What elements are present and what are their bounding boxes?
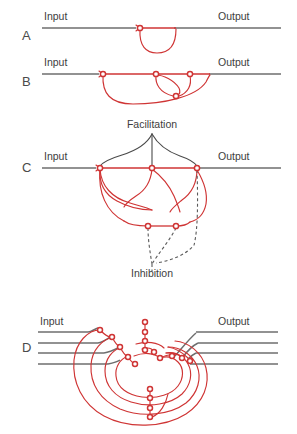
panel-c-loop-right-a: [170, 169, 197, 212]
panel-c-label: C: [22, 160, 31, 175]
panel-c-synapse-5: [173, 223, 178, 228]
panel-c: C Input Output Facilitation Inhibition: [22, 118, 281, 279]
panel-d-input-label: Input: [40, 315, 63, 327]
panel-d-loop-outer: [74, 330, 207, 425]
panel-c-inhibition-label: Inhibition: [131, 267, 173, 279]
panel-b-loop-mid-left: [156, 75, 173, 96]
panel-d-output-label: Output: [218, 315, 250, 327]
panel-c-synapse-3: [194, 165, 199, 170]
panel-d-synapse-l3: [118, 345, 123, 350]
panel-c-inhibition-fiber-1: [148, 228, 152, 264]
panel-d-synapse-l5: [133, 362, 138, 367]
panel-c-loop-mid-a: [124, 169, 152, 207]
panel-d-synapse-r3: [180, 356, 185, 361]
panel-c-facilitation-fiber-right: [152, 134, 197, 166]
panel-d-synapse-r1: [158, 356, 163, 361]
panel-d-synapse-l1: [98, 328, 103, 333]
panel-b-synapse-4: [173, 93, 178, 98]
panel-d-synapse-b2: [148, 396, 153, 401]
panel-d-label: D: [22, 340, 31, 355]
panel-c-synapse-2: [149, 165, 154, 170]
panel-d-inner-arc-1: [136, 342, 164, 348]
panel-b-label: B: [22, 74, 31, 89]
panel-c-input-label: Input: [44, 150, 67, 162]
panel-c-synapse-4: [145, 223, 150, 228]
panel-d-synapse-t4: [143, 348, 148, 353]
panel-b-output-label: Output: [218, 56, 250, 68]
panel-d: D Input Output: [22, 315, 278, 425]
panel-c-loop-3-left: [100, 170, 124, 221]
panel-c-synapse-1: [97, 165, 102, 170]
panel-d-synapse-t1: [143, 320, 148, 325]
panel-a-synapse-1: [137, 25, 142, 30]
neural-circuit-figure: A Input Output B Input Output: [0, 0, 297, 434]
panel-c-loop-right-b: [190, 170, 206, 222]
panel-d-synapse-b1: [148, 387, 153, 392]
panel-a-output-label: Output: [218, 10, 250, 22]
panel-c-lower-left-arc: [124, 221, 148, 226]
panel-d-input-hook-3: [104, 348, 118, 353]
panel-c-facilitation-label: Facilitation: [127, 118, 177, 130]
panel-d-synapse-i1: [152, 350, 157, 355]
panel-b-loop-node3: [179, 76, 191, 96]
panel-d-synapse-l2: [110, 335, 115, 340]
panel-d-synapse-r2: [170, 354, 175, 359]
panel-b-synapse-3: [187, 71, 192, 76]
panel-d-synapse-b4: [148, 415, 153, 420]
panel-b-synapse-1: [100, 71, 105, 76]
panel-b-synapse-2: [153, 71, 158, 76]
panel-a: A Input Output: [22, 10, 281, 53]
panel-a-loop-1: [140, 29, 176, 53]
panel-d-synapse-r4: [188, 359, 193, 364]
panel-a-input-label: Input: [44, 10, 67, 22]
panel-d-synapse-t3: [143, 339, 148, 344]
panel-a-label: A: [22, 28, 31, 43]
panel-d-synapse-b3: [148, 406, 153, 411]
panel-d-synapse-l4: [126, 355, 131, 360]
panel-c-facilitation-fiber-left: [100, 134, 152, 166]
panel-c-output-label: Output: [218, 150, 250, 162]
panel-b-input-label: Input: [44, 56, 67, 68]
panel-b: B Input Output: [22, 56, 281, 104]
panel-d-synapse-t2: [143, 330, 148, 335]
